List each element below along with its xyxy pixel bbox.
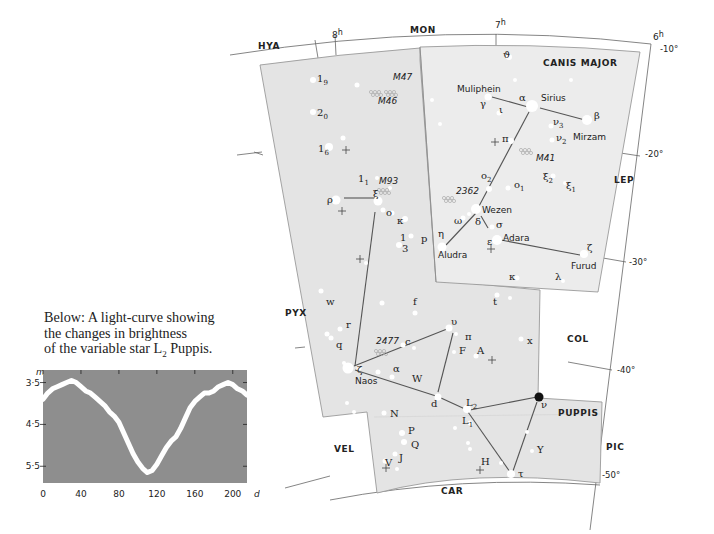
star-designation-label: α <box>393 363 400 374</box>
x-tick-label: 200 <box>224 489 241 498</box>
star-designation-label: λ <box>555 271 562 282</box>
star-dot <box>454 332 458 336</box>
star-dot <box>399 430 405 436</box>
x-tick-label: 40 <box>75 489 87 498</box>
star-designation-label: ρ <box>327 194 333 205</box>
x-tick-label: 0 <box>40 489 46 498</box>
region-label: PYX <box>285 308 307 318</box>
star-designation-label: x <box>527 335 533 346</box>
star-dot <box>453 426 457 430</box>
star-dot <box>513 78 517 82</box>
star-dot <box>352 410 356 414</box>
region-label: CAR <box>441 486 463 496</box>
star-dot <box>468 447 472 451</box>
y-tick-label: 4·5 <box>26 419 40 429</box>
star-designation-label: β <box>594 110 600 121</box>
star-dot <box>508 138 514 144</box>
star-dot <box>519 337 524 342</box>
caption-line-1: Below: A light-curve showing <box>44 310 264 326</box>
region-label: PUPPIS <box>558 408 599 418</box>
region-label: HYA <box>258 41 280 51</box>
star-dot <box>412 346 416 350</box>
star-name-label: Muliphein <box>457 84 501 94</box>
x-tick-label: 80 <box>113 489 125 498</box>
star-dot <box>355 83 360 88</box>
star-designation-label: w <box>326 296 335 307</box>
ra-label: 6h <box>653 30 664 42</box>
star-designation-label: N <box>390 408 399 419</box>
star-dot <box>390 375 395 380</box>
region-label: PIC <box>606 442 624 452</box>
star-name-label: Aludra <box>438 250 467 260</box>
star-dot <box>438 122 442 126</box>
star-designation-label: P <box>408 425 415 436</box>
caption-line-3-pre: of the variable star L <box>44 340 162 356</box>
star-designation-label: ϑ <box>503 49 510 60</box>
light-curve-caption: Below: A light-curve showing the changes… <box>44 310 264 362</box>
star-dot <box>430 98 434 102</box>
star-dot <box>507 470 515 478</box>
star-dot <box>508 296 512 300</box>
star-designation-label: ζ <box>357 364 363 375</box>
star-designation-label: V <box>384 457 393 468</box>
star-designation-label: W <box>412 373 423 384</box>
star-dot <box>376 370 381 375</box>
star-dot <box>486 186 492 192</box>
cluster-label: M41 <box>536 153 555 163</box>
region-label: COL <box>567 334 589 344</box>
region-label: VEL <box>334 444 355 454</box>
star-dot <box>325 332 330 337</box>
light-curve-chart: m 04080120160200d3·54·55·5 <box>0 358 260 498</box>
star-designation-label: A <box>476 345 485 356</box>
caption-line-2: the changes in brightness <box>44 326 264 342</box>
star-dot <box>341 136 346 141</box>
cluster-label: M93 <box>379 176 398 186</box>
star-designation-label: t <box>493 296 497 307</box>
declination-label: -30° <box>629 257 647 267</box>
star-dot <box>515 276 520 281</box>
star-designation-label: π <box>502 133 509 144</box>
star-dot <box>530 449 534 453</box>
star-designation-label: δ <box>475 216 481 227</box>
star-designation-label: d <box>431 398 438 409</box>
cluster-label: 2477 <box>376 336 399 346</box>
star-designation-label: 3 <box>402 243 408 254</box>
star-designation-label: 1 <box>400 232 406 243</box>
star-dot <box>492 235 502 245</box>
star-designation-label: Q <box>411 439 419 450</box>
declination-label: -10° <box>660 44 678 54</box>
star-dot <box>342 361 346 365</box>
region-label: MON <box>410 25 436 35</box>
star-designation-label: H <box>481 456 490 467</box>
star-dot <box>409 234 414 239</box>
star-designation-label: o <box>386 207 392 218</box>
star-designation-label: σ <box>496 219 503 230</box>
star-dot <box>499 461 503 465</box>
star-designation-label: ι <box>499 104 503 115</box>
star-dot <box>382 411 387 416</box>
y-tick-label: 5·5 <box>26 461 40 471</box>
cluster-label: M46 <box>378 96 397 106</box>
star-name-label: Wezen <box>482 205 512 215</box>
star-dot <box>345 401 349 405</box>
star-dot <box>381 208 386 213</box>
star-designation-label: π <box>465 331 472 342</box>
ra-label: 8h <box>332 28 343 40</box>
star-name-label: Adara <box>503 233 529 243</box>
caption-line-3-post: Puppis. <box>167 340 213 356</box>
star-dot <box>329 336 334 341</box>
star-designation-label: c <box>405 336 411 347</box>
star-designation-label: ζ <box>587 242 593 253</box>
cluster-label: 2362 <box>456 186 479 196</box>
star-designation-label: η <box>438 228 444 239</box>
star-dot <box>310 109 316 115</box>
star-dot <box>525 430 529 434</box>
star-dot <box>569 78 573 82</box>
star-designation-label: κ <box>509 271 516 282</box>
cluster-label: M47 <box>393 72 412 82</box>
star-designation-label: ε <box>487 236 492 247</box>
declination-label: -20° <box>645 149 663 159</box>
ra-label: 7h <box>495 18 506 30</box>
x-tick-label: 120 <box>148 489 165 498</box>
star-designation-label: ω <box>454 215 462 226</box>
